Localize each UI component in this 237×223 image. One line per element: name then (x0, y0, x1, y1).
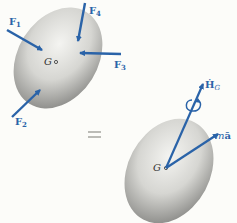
equals-sign-top-bar (88, 131, 101, 133)
label-f2-sub: 2 (22, 120, 27, 129)
label-f3-sub: 3 (121, 63, 126, 72)
label-hg-sub: G (214, 84, 220, 92)
free-body-diagram: F1 F4 F3 F2 G ḢG mā G (0, 0, 237, 223)
diagram-graphics (0, 0, 237, 223)
force-arrow-f3 (80, 53, 121, 54)
label-f2: F2 (15, 117, 27, 128)
label-f3: F3 (114, 60, 126, 71)
label-f1-sub: 1 (16, 20, 21, 29)
label-g-bottom: G (153, 163, 161, 173)
label-f4-sub: 4 (96, 9, 101, 18)
label-f1: F1 (9, 17, 21, 28)
label-f4: F4 (89, 6, 101, 17)
label-hg-dot: ḢG (205, 80, 220, 92)
label-a-bar-text: ā (224, 130, 230, 141)
label-ma-bar: mā (215, 131, 231, 141)
label-g-top: G (44, 57, 52, 67)
equals-sign-bottom-bar (88, 136, 101, 138)
